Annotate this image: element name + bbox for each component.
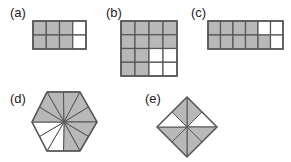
grid-cell-c bbox=[271, 35, 284, 49]
grid-cell-c bbox=[258, 21, 271, 35]
grid-cell-a bbox=[73, 21, 86, 35]
grid-cell-c bbox=[246, 35, 259, 49]
grid-cell-c bbox=[221, 21, 234, 35]
fraction-figures bbox=[0, 0, 291, 162]
grid-cell-c bbox=[233, 21, 246, 35]
grid-cell-c bbox=[246, 21, 259, 35]
grid-cell-b bbox=[121, 21, 135, 35]
grid-cell-b bbox=[163, 62, 177, 76]
grid-cell-a bbox=[33, 21, 46, 35]
grid-cell-c bbox=[208, 21, 221, 35]
grid-cell-c bbox=[258, 35, 271, 49]
grid-cell-b bbox=[163, 35, 177, 49]
grid-cell-a bbox=[60, 21, 73, 35]
grid-cell-b bbox=[135, 49, 149, 63]
grid-cell-a bbox=[46, 21, 59, 35]
grid-cell-b bbox=[149, 49, 163, 63]
grid-cell-b bbox=[149, 35, 163, 49]
grid-cell-a bbox=[60, 35, 73, 49]
grid-cell-b bbox=[135, 62, 149, 76]
grid-cell-a bbox=[46, 35, 59, 49]
grid-cell-c bbox=[271, 21, 284, 35]
grid-cell-b bbox=[121, 35, 135, 49]
grid-cell-b bbox=[121, 62, 135, 76]
grid-cell-b bbox=[149, 62, 163, 76]
grid-cell-b bbox=[121, 49, 135, 63]
grid-cell-b bbox=[163, 49, 177, 63]
grid-cell-b bbox=[135, 35, 149, 49]
grid-cell-b bbox=[135, 21, 149, 35]
grid-cell-b bbox=[163, 21, 177, 35]
grid-cell-c bbox=[221, 35, 234, 49]
grid-cell-b bbox=[149, 21, 163, 35]
grid-cell-c bbox=[208, 35, 221, 49]
grid-cell-a bbox=[33, 35, 46, 49]
grid-cell-a bbox=[73, 35, 86, 49]
grid-cell-c bbox=[233, 35, 246, 49]
